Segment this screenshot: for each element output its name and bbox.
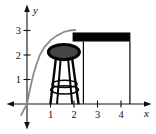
x-tick-label: 3 — [95, 109, 100, 120]
x-tick-label: 1 — [48, 109, 53, 120]
x-axis-left-arrow-icon — [7, 101, 15, 107]
y-tick-label: 3 — [16, 25, 21, 36]
trajectory-curve — [21, 30, 75, 115]
y-tick-label: 2 — [16, 50, 21, 61]
stool-seat — [48, 44, 79, 59]
y-axis-ticks: 123 — [16, 25, 31, 85]
y-tick-label: 1 — [16, 74, 21, 85]
y-axis-down-arrow-icon — [24, 122, 30, 130]
y-axis-up-arrow-icon — [24, 5, 30, 13]
x-tick-label: 4 — [118, 109, 124, 120]
x-tick-label: 2 — [71, 109, 76, 120]
coordinate-figure: 1234 123 x y — [0, 0, 156, 134]
figure-canvas: 1234 123 x y — [0, 0, 156, 134]
counter — [73, 32, 131, 104]
x-axis-label: x — [143, 107, 149, 119]
x-axis-ticks: 1234 — [48, 101, 125, 121]
y-axis-label: y — [32, 4, 38, 16]
bar-stool — [48, 44, 79, 103]
counter-top — [73, 32, 131, 41]
